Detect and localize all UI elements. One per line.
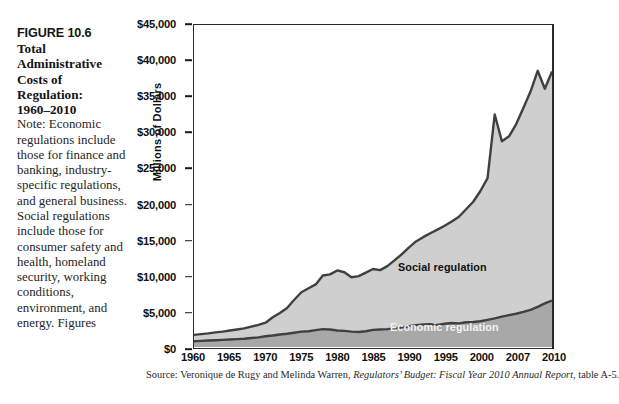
y-tick-mark <box>185 59 192 61</box>
x-tick-label: 1960 <box>181 351 205 363</box>
x-tick-label: 2000 <box>470 351 494 363</box>
y-tick-label: $35,000 <box>137 90 176 102</box>
y-tick-label: $10,000 <box>137 271 176 283</box>
y-tick-mark <box>185 168 192 170</box>
y-tick-mark <box>185 132 192 134</box>
y-tick-label: $15,000 <box>137 235 176 247</box>
source-suffix: , table A-5. <box>573 369 619 380</box>
x-axis-labels: 1960196519701975198019851990199520002007… <box>193 351 554 367</box>
x-tick-label: 1965 <box>217 351 241 363</box>
y-tick-label: $40,000 <box>137 54 176 66</box>
y-tick-mark <box>185 23 192 25</box>
y-tick-mark <box>185 204 192 206</box>
social-regulation-area <box>194 71 552 341</box>
source-note: Source: Veronique de Rugy and Melinda Wa… <box>146 369 619 380</box>
chart-container: Millions of Dollars $0$5,000$10,000$15,0… <box>110 16 572 361</box>
y-tick-label: $0 <box>164 343 176 355</box>
x-tick-label: 1975 <box>289 351 313 363</box>
x-tick-label: 1985 <box>361 351 385 363</box>
source-prefix: Source: Veronique de Rugy and Melinda Wa… <box>146 369 353 380</box>
cropped-text-sliver <box>150 0 570 5</box>
y-tick-mark <box>185 240 192 242</box>
y-axis-labels: $0$5,000$10,000$15,000$20,000$25,000$30,… <box>110 16 182 349</box>
plot-area: Social regulation Economic regulation <box>193 24 554 349</box>
x-tick-label: 2007 <box>506 351 530 363</box>
y-tick-mark <box>185 348 192 350</box>
x-tick-label: 1970 <box>253 351 277 363</box>
y-tick-mark <box>185 95 192 97</box>
y-tick-label: $25,000 <box>137 162 176 174</box>
x-tick-label: 2010 <box>542 351 566 363</box>
y-tick-mark <box>185 312 192 314</box>
x-tick-label: 1990 <box>398 351 422 363</box>
series-label-social: Social regulation <box>398 261 487 273</box>
x-tick-label: 1980 <box>325 351 349 363</box>
y-tick-mark <box>185 276 192 278</box>
y-tick-label: $5,000 <box>143 307 176 319</box>
source-title: Regulators’ Budget: Fiscal Year 2010 Ann… <box>353 369 573 380</box>
y-tick-label: $20,000 <box>137 199 176 211</box>
y-tick-label: $45,000 <box>137 18 176 30</box>
series-label-economic: Economic regulation <box>390 321 499 333</box>
y-tick-label: $30,000 <box>137 126 176 138</box>
x-tick-label: 1995 <box>434 351 458 363</box>
stacked-area-chart <box>194 25 552 347</box>
